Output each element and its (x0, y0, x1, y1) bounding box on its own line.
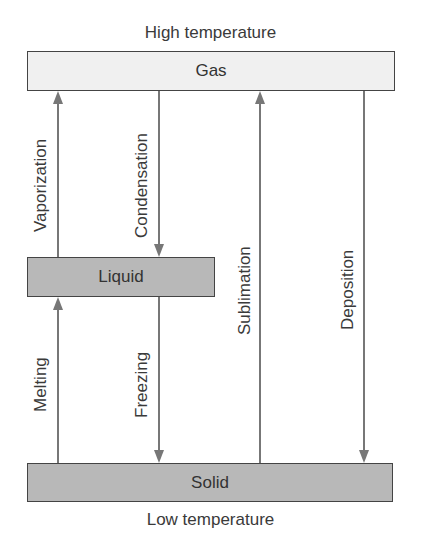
sublimation-label: Sublimation (236, 246, 253, 335)
freezing-label: Freezing (133, 352, 150, 418)
deposition-arrow-icon (359, 91, 369, 463)
melting-label: Melting (32, 357, 49, 412)
melting-arrow-icon (53, 297, 63, 463)
deposition-label: Deposition (339, 250, 356, 330)
transition-arrows (0, 0, 421, 535)
freezing-arrow-icon (154, 297, 164, 463)
condensation-label: Condensation (133, 133, 150, 238)
condensation-arrow-icon (154, 91, 164, 257)
vaporization-arrow-icon (53, 91, 63, 257)
vaporization-label: Vaporization (32, 139, 49, 232)
sublimation-arrow-icon (255, 91, 265, 463)
